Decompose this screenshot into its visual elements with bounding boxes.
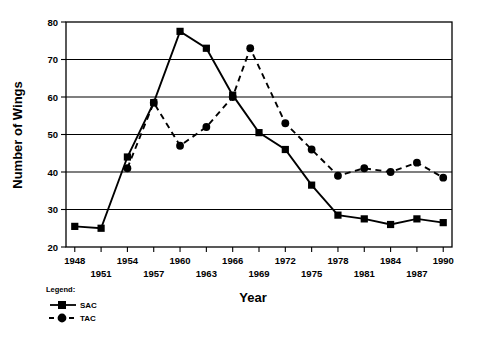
series-line <box>127 48 443 177</box>
data-point-marker <box>360 164 368 172</box>
chart-legend: Legend: SAC TAC <box>46 285 97 323</box>
data-point-marker <box>387 168 395 176</box>
data-point-marker <box>203 45 210 52</box>
data-point-marker <box>246 44 254 52</box>
line-chart: 20304050607080 1948195119541957196019631… <box>0 0 479 339</box>
x-tick-label: 1987 <box>406 268 427 279</box>
series-tac <box>124 44 448 181</box>
data-point-marker <box>440 219 447 226</box>
data-point-marker <box>281 119 289 127</box>
x-axis-ticks: 1948195119541957196019631966196919721975… <box>64 247 454 279</box>
y-tick-label: 20 <box>47 242 58 253</box>
series-sac <box>71 28 447 232</box>
legend-entry-sac: SAC <box>50 301 97 310</box>
data-point-marker <box>334 172 342 180</box>
data-point-marker <box>334 212 341 219</box>
data-point-marker <box>413 215 420 222</box>
x-tick-label: 1960 <box>169 255 190 266</box>
x-axis-title: Year <box>239 290 266 305</box>
x-tick-label: 1990 <box>433 255 454 266</box>
x-tick-label: 1981 <box>354 268 376 279</box>
data-point-marker <box>282 146 289 153</box>
legend-title: Legend: <box>46 285 75 294</box>
data-point-marker <box>229 93 237 101</box>
data-point-marker <box>308 182 315 189</box>
data-point-marker <box>387 221 394 228</box>
x-tick-label: 1963 <box>196 268 217 279</box>
x-tick-label: 1951 <box>91 268 113 279</box>
y-tick-label: 70 <box>47 54 58 65</box>
circle-marker-icon <box>58 314 67 323</box>
x-tick-label: 1948 <box>64 255 85 266</box>
data-point-marker <box>124 153 131 160</box>
y-tick-label: 80 <box>47 17 58 28</box>
x-tick-label: 1957 <box>143 268 164 279</box>
data-point-marker <box>202 123 210 131</box>
data-point-marker <box>413 159 421 167</box>
y-tick-label: 60 <box>47 92 58 103</box>
data-point-marker <box>71 223 78 230</box>
y-axis-ticks: 20304050607080 <box>47 17 66 253</box>
x-tick-label: 1954 <box>117 255 139 266</box>
y-axis-title: Number of Wings <box>10 81 25 189</box>
data-point-marker <box>97 225 104 232</box>
square-marker-icon <box>58 301 66 309</box>
data-series-layer <box>71 28 447 232</box>
data-point-marker <box>255 129 262 136</box>
data-point-marker <box>361 215 368 222</box>
legend-entry-tac: TAC <box>49 314 96 323</box>
data-point-marker <box>439 174 447 182</box>
y-tick-label: 30 <box>47 204 58 215</box>
data-point-marker <box>308 146 316 154</box>
chart-figure: 20304050607080 1948195119541957196019631… <box>0 0 479 339</box>
legend-label-sac: SAC <box>80 301 97 310</box>
data-point-marker <box>124 164 132 172</box>
x-tick-label: 1984 <box>380 255 402 266</box>
y-tick-label: 50 <box>47 129 58 140</box>
x-tick-label: 1972 <box>275 255 296 266</box>
data-point-marker <box>176 142 184 150</box>
data-point-marker <box>150 99 158 107</box>
y-tick-label: 40 <box>47 167 58 178</box>
x-tick-label: 1975 <box>301 268 323 279</box>
x-tick-label: 1978 <box>327 255 348 266</box>
x-tick-label: 1969 <box>248 268 269 279</box>
data-point-marker <box>176 28 183 35</box>
x-tick-label: 1966 <box>222 255 243 266</box>
legend-label-tac: TAC <box>80 314 96 323</box>
